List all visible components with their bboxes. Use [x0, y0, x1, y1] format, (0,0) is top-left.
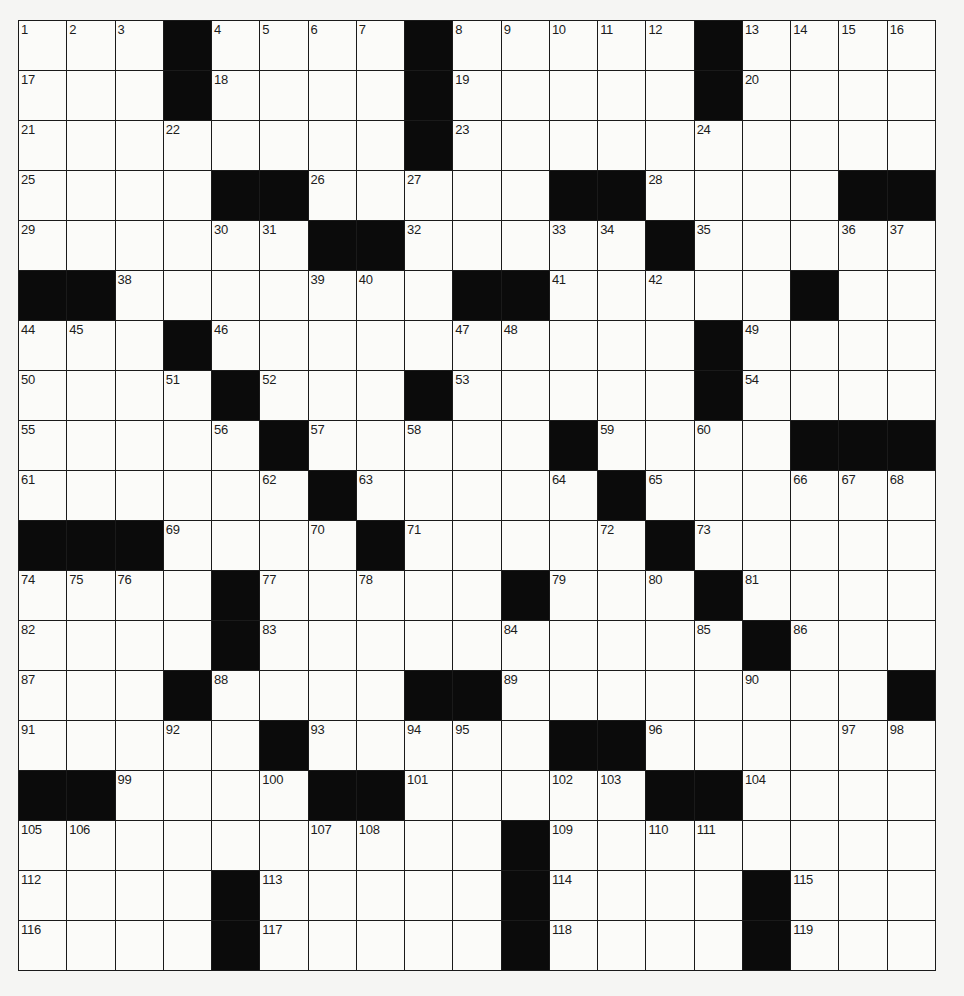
grid-cell[interactable] — [502, 721, 549, 770]
grid-cell[interactable] — [116, 721, 163, 770]
grid-cell[interactable] — [695, 921, 742, 970]
grid-cell[interactable]: 85 — [695, 621, 742, 670]
grid-cell[interactable]: 31 — [260, 221, 307, 270]
grid-cell[interactable]: 97 — [839, 721, 886, 770]
grid-cell[interactable] — [743, 171, 790, 220]
grid-cell[interactable] — [502, 421, 549, 470]
grid-cell[interactable] — [502, 121, 549, 170]
grid-cell[interactable]: 59 — [598, 421, 645, 470]
grid-cell[interactable] — [164, 571, 211, 620]
grid-cell[interactable] — [839, 821, 886, 870]
grid-cell[interactable] — [550, 121, 597, 170]
grid-cell[interactable] — [791, 321, 838, 370]
grid-cell[interactable]: 37 — [888, 221, 935, 270]
grid-cell[interactable] — [357, 621, 404, 670]
grid-cell[interactable]: 73 — [695, 521, 742, 570]
grid-cell[interactable]: 74 — [19, 571, 66, 620]
grid-cell[interactable] — [67, 121, 114, 170]
grid-cell[interactable]: 86 — [791, 621, 838, 670]
grid-cell[interactable]: 3 — [116, 21, 163, 70]
grid-cell[interactable]: 9 — [502, 21, 549, 70]
grid-cell[interactable] — [453, 171, 500, 220]
grid-cell[interactable] — [888, 271, 935, 320]
grid-cell[interactable]: 60 — [695, 421, 742, 470]
grid-cell[interactable] — [164, 221, 211, 270]
grid-cell[interactable] — [453, 221, 500, 270]
grid-cell[interactable] — [695, 721, 742, 770]
grid-cell[interactable] — [598, 271, 645, 320]
grid-cell[interactable]: 53 — [453, 371, 500, 420]
grid-cell[interactable]: 41 — [550, 271, 597, 320]
grid-cell[interactable] — [743, 721, 790, 770]
grid-cell[interactable] — [116, 221, 163, 270]
grid-cell[interactable]: 87 — [19, 671, 66, 720]
grid-cell[interactable] — [598, 71, 645, 120]
grid-cell[interactable] — [405, 871, 452, 920]
grid-cell[interactable] — [357, 121, 404, 170]
grid-cell[interactable]: 22 — [164, 121, 211, 170]
grid-cell[interactable] — [743, 421, 790, 470]
grid-cell[interactable] — [550, 321, 597, 370]
grid-cell[interactable] — [116, 921, 163, 970]
grid-cell[interactable]: 112 — [19, 871, 66, 920]
grid-cell[interactable]: 54 — [743, 371, 790, 420]
grid-cell[interactable]: 117 — [260, 921, 307, 970]
grid-cell[interactable]: 83 — [260, 621, 307, 670]
grid-cell[interactable] — [839, 771, 886, 820]
grid-cell[interactable]: 114 — [550, 871, 597, 920]
grid-cell[interactable] — [453, 521, 500, 570]
grid-cell[interactable]: 26 — [309, 171, 356, 220]
grid-cell[interactable] — [453, 821, 500, 870]
grid-cell[interactable] — [550, 71, 597, 120]
grid-cell[interactable]: 75 — [67, 571, 114, 620]
grid-cell[interactable]: 32 — [405, 221, 452, 270]
grid-cell[interactable] — [743, 521, 790, 570]
grid-cell[interactable]: 111 — [695, 821, 742, 870]
grid-cell[interactable]: 12 — [646, 21, 693, 70]
grid-cell[interactable]: 115 — [791, 871, 838, 920]
grid-cell[interactable] — [67, 671, 114, 720]
grid-cell[interactable] — [695, 671, 742, 720]
grid-cell[interactable]: 79 — [550, 571, 597, 620]
grid-cell[interactable]: 70 — [309, 521, 356, 570]
grid-cell[interactable] — [888, 821, 935, 870]
grid-cell[interactable]: 100 — [260, 771, 307, 820]
grid-cell[interactable]: 77 — [260, 571, 307, 620]
grid-cell[interactable]: 58 — [405, 421, 452, 470]
grid-cell[interactable]: 28 — [646, 171, 693, 220]
grid-cell[interactable]: 42 — [646, 271, 693, 320]
grid-cell[interactable] — [791, 771, 838, 820]
grid-cell[interactable]: 8 — [453, 21, 500, 70]
grid-cell[interactable]: 1 — [19, 21, 66, 70]
grid-cell[interactable] — [357, 921, 404, 970]
grid-cell[interactable] — [839, 571, 886, 620]
grid-cell[interactable] — [405, 471, 452, 520]
grid-cell[interactable]: 45 — [67, 321, 114, 370]
grid-cell[interactable] — [598, 921, 645, 970]
grid-cell[interactable] — [164, 171, 211, 220]
grid-cell[interactable] — [309, 921, 356, 970]
grid-cell[interactable] — [164, 621, 211, 670]
grid-cell[interactable]: 84 — [502, 621, 549, 670]
grid-cell[interactable] — [502, 471, 549, 520]
grid-cell[interactable] — [357, 371, 404, 420]
grid-cell[interactable] — [839, 621, 886, 670]
grid-cell[interactable] — [164, 821, 211, 870]
grid-cell[interactable] — [888, 71, 935, 120]
grid-cell[interactable]: 62 — [260, 471, 307, 520]
grid-cell[interactable] — [164, 871, 211, 920]
grid-cell[interactable] — [598, 121, 645, 170]
grid-cell[interactable] — [695, 271, 742, 320]
grid-cell[interactable]: 118 — [550, 921, 597, 970]
grid-cell[interactable]: 78 — [357, 571, 404, 620]
grid-cell[interactable] — [791, 371, 838, 420]
grid-cell[interactable] — [888, 521, 935, 570]
grid-cell[interactable] — [67, 621, 114, 670]
grid-cell[interactable] — [502, 221, 549, 270]
grid-cell[interactable]: 94 — [405, 721, 452, 770]
grid-cell[interactable]: 33 — [550, 221, 597, 270]
grid-cell[interactable]: 40 — [357, 271, 404, 320]
grid-cell[interactable] — [357, 871, 404, 920]
grid-cell[interactable]: 103 — [598, 771, 645, 820]
grid-cell[interactable]: 51 — [164, 371, 211, 420]
